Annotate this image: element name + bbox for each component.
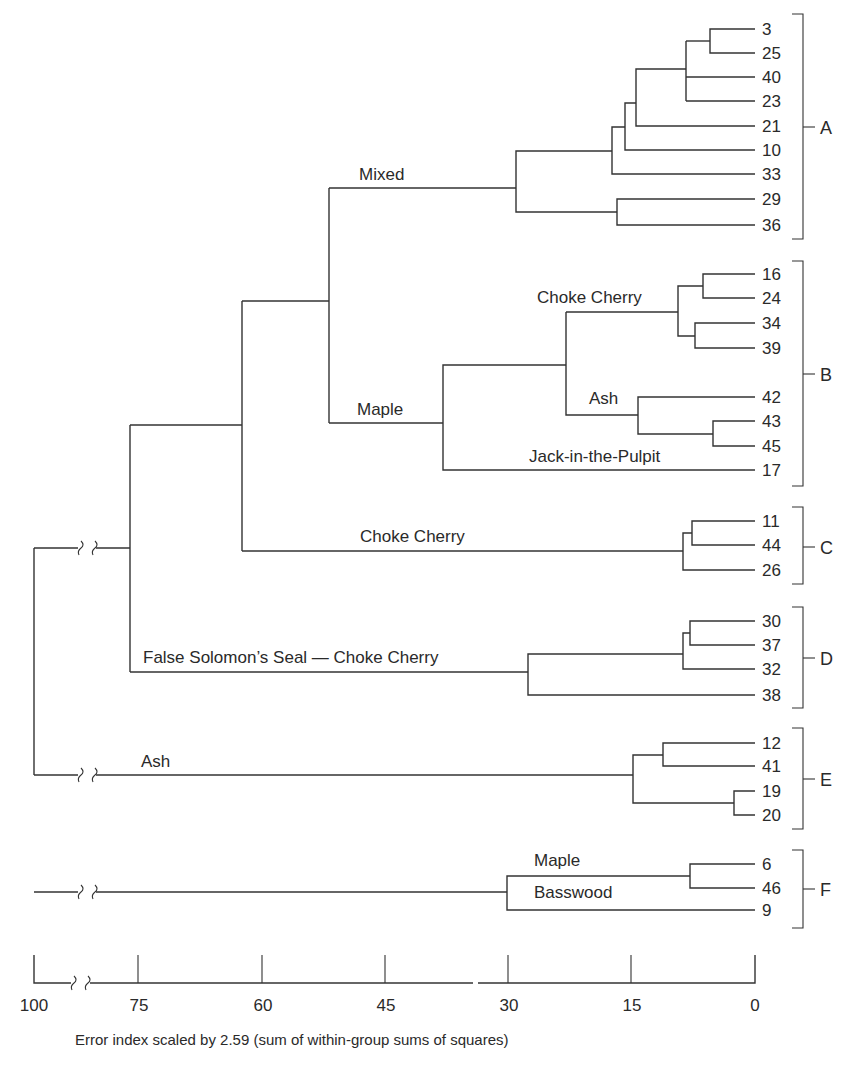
leaf-labels: 3 25 40 23 21 10 33 29 36 16 24 34 39 42… xyxy=(762,20,781,920)
leaf-label: 34 xyxy=(762,314,781,333)
leaf-label: 42 xyxy=(762,388,781,407)
leaf-label: 10 xyxy=(762,141,781,160)
group-a-branches xyxy=(329,29,755,225)
cluster-label-ash-e: Ash xyxy=(141,752,170,771)
leaf-label: 29 xyxy=(762,190,781,209)
cluster-label-choke-cherry: Choke Cherry xyxy=(537,288,642,307)
x-axis xyxy=(34,955,755,990)
tick-label: 45 xyxy=(377,996,396,1015)
leaf-label: 36 xyxy=(762,216,781,235)
leaf-label: 40 xyxy=(762,68,781,87)
cluster-label-ash: Ash xyxy=(589,389,618,408)
tick-label: 75 xyxy=(130,996,149,1015)
leaf-label: 21 xyxy=(762,117,781,136)
cluster-label-mixed: Mixed xyxy=(359,165,404,184)
tick-label: 60 xyxy=(254,996,273,1015)
x-axis-tick-labels: 100 75 60 45 30 15 0 xyxy=(20,996,760,1015)
tick-label: 0 xyxy=(750,996,759,1015)
group-label-c: C xyxy=(820,538,833,558)
leaf-label: 26 xyxy=(762,561,781,580)
leaf-label: 25 xyxy=(762,44,781,63)
cluster-label-choke-cherry-c: Choke Cherry xyxy=(360,527,465,546)
leaf-label: 16 xyxy=(762,265,781,284)
group-e-branches xyxy=(34,548,755,815)
leaf-label: 9 xyxy=(762,901,771,920)
leaf-label: 37 xyxy=(762,636,781,655)
leaf-label: 17 xyxy=(762,461,781,480)
leaf-label: 41 xyxy=(762,757,781,776)
leaf-label: 24 xyxy=(762,289,781,308)
cluster-label-maple-f: Maple xyxy=(534,851,580,870)
cluster-label-maple: Maple xyxy=(357,400,403,419)
leaf-label: 44 xyxy=(762,536,781,555)
leaf-label: 30 xyxy=(762,612,781,631)
dendrogram-chart: 3 25 40 23 21 10 33 29 36 16 24 34 39 42… xyxy=(0,0,860,1073)
leaf-label: 11 xyxy=(762,512,780,531)
tick-label: 30 xyxy=(500,996,519,1015)
group-label-a: A xyxy=(820,118,832,138)
cluster-labels: Mixed Maple Choke Cherry Ash Jack-in-the… xyxy=(141,165,661,902)
group-label-b: B xyxy=(820,365,832,385)
leaf-label: 46 xyxy=(762,879,781,898)
cluster-label-jack-in-the-pulpit: Jack-in-the-Pulpit xyxy=(529,447,661,466)
group-f-branches xyxy=(34,864,755,910)
cluster-label-basswood: Basswood xyxy=(534,883,612,902)
leaf-label: 33 xyxy=(762,165,781,184)
group-letters: A B C D E F xyxy=(820,118,833,900)
cluster-label-false-solomons-seal: False Solomon’s Seal — Choke Cherry xyxy=(143,648,439,667)
leaf-label: 39 xyxy=(762,339,781,358)
leaf-label: 45 xyxy=(762,437,781,456)
leaf-label: 3 xyxy=(762,20,771,39)
leaf-label: 32 xyxy=(762,660,781,679)
leaf-label: 38 xyxy=(762,686,781,705)
leaf-label: 6 xyxy=(762,855,771,874)
group-label-f: F xyxy=(820,880,831,900)
group-b-branches xyxy=(242,188,755,470)
branch-break-marks xyxy=(78,541,97,899)
tick-label: 15 xyxy=(623,996,642,1015)
group-label-d: D xyxy=(820,649,833,669)
leaf-label: 12 xyxy=(762,734,781,753)
group-label-e: E xyxy=(820,770,832,790)
leaf-label: 43 xyxy=(762,412,781,431)
x-axis-title: Error index scaled by 2.59 (sum of withi… xyxy=(75,1031,509,1048)
tick-label: 100 xyxy=(20,996,48,1015)
leaf-label: 20 xyxy=(762,806,781,825)
leaf-label: 23 xyxy=(762,92,781,111)
leaf-label: 19 xyxy=(762,782,781,801)
group-brackets xyxy=(792,14,815,928)
